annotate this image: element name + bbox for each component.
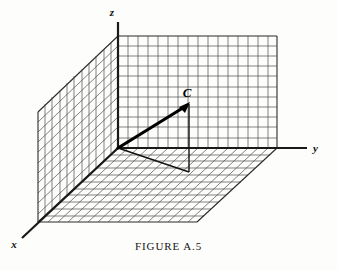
vector-c-label: C — [183, 85, 192, 100]
floor-projection-line — [118, 148, 189, 172]
axes-group — [22, 22, 307, 238]
x-axis — [22, 148, 118, 238]
back-wall-horizontal-gridlines — [118, 36, 277, 138]
y-axis-label: y — [311, 142, 318, 154]
coordinate-system-diagram: z y x C — [0, 0, 337, 270]
z-axis-label: z — [109, 6, 115, 18]
back-wall-plane — [118, 36, 277, 148]
vector-c-group — [118, 102, 190, 148]
figure-caption: FIGURE A.5 — [0, 240, 337, 252]
figure-container: z y x C FIGURE A.5 — [0, 0, 337, 270]
back-wall-vertical-gridlines — [118, 36, 277, 148]
